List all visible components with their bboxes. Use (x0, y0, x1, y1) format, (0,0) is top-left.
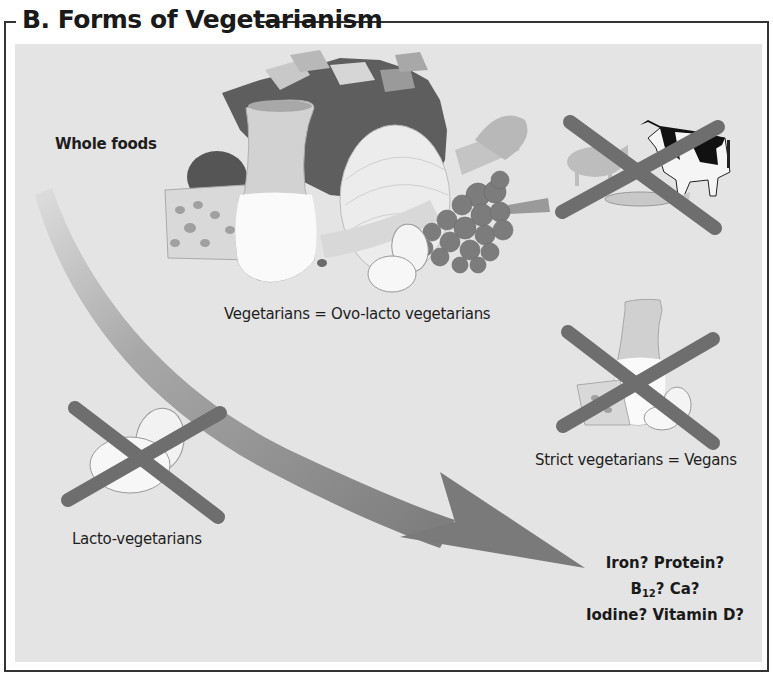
lacto-label: Lacto-vegetarians (72, 530, 202, 548)
vegans-label: Strict vegetarians = Vegans (535, 451, 737, 469)
b12-subscript: 12 (642, 588, 656, 599)
b12-suffix: ? Ca? (656, 580, 700, 598)
ovo-lacto-label: Vegetarians = Ovo-lacto vegetarians (224, 305, 490, 323)
food-cluster-icon (165, 50, 550, 292)
b12-prefix: B (630, 580, 641, 598)
deficiency-line-1: Iron? Protein? (590, 550, 740, 576)
whole-foods-label: Whole foods (55, 135, 157, 153)
deficiency-line-3: Iodine? Vitamin D? (580, 602, 750, 628)
